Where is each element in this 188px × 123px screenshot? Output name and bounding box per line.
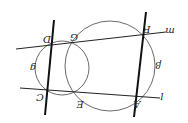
label-D: D [43, 34, 52, 45]
label-m: m [165, 26, 174, 37]
small-circle-g [35, 41, 89, 95]
label-C: C [36, 92, 44, 103]
label-E: E [76, 99, 85, 110]
label-l: l [160, 91, 163, 102]
geometry-diagram: D G F m g β C E A l [0, 0, 188, 123]
label-G: G [70, 32, 78, 43]
label-beta: β [155, 60, 162, 71]
label-F: F [142, 24, 151, 35]
label-A: A [133, 99, 141, 110]
label-g: g [30, 63, 36, 74]
